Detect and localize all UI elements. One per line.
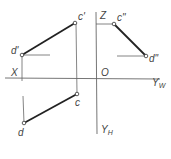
label-d-side: d" [149,53,159,64]
x-axis-line [5,78,160,79]
label-d-front: d' [11,45,20,56]
point-d-top-marker [22,121,26,125]
label-x-axis: X [10,67,18,78]
label-d-top: d [18,127,24,138]
point-c-front-marker [73,21,77,25]
d-top-vertical-line [23,96,24,123]
label-c-top: c [75,97,80,108]
projection-diagram: d' c' Z c" d" X O YW c d YH [0,0,171,159]
point-d-side-marker [144,54,148,58]
point-c-side-marker [112,22,116,26]
c-front-vertical-line [76,23,77,94]
side-segment-cd [114,24,146,56]
label-c-front: c' [78,11,86,22]
point-d-front-marker [20,53,24,57]
label-yh-axis: YH [101,124,114,136]
point-c-top-marker [75,92,79,96]
z-yh-axis-line [96,12,97,134]
top-segment-cd [24,94,77,123]
label-z-axis: Z [99,10,107,21]
label-origin: O [101,67,109,78]
front-segment-cd [22,23,75,55]
label-c-side: c" [117,12,126,23]
